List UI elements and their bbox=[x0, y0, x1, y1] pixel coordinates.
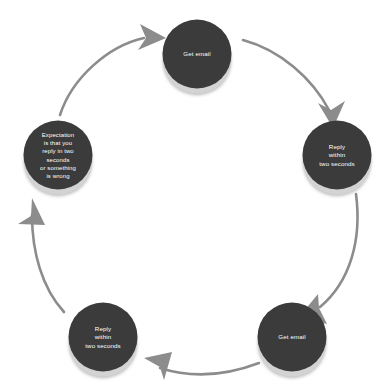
arrow-bottom-right-to-bottom-left-line bbox=[160, 363, 259, 374]
node-get-email-bottom-right[interactable]: Get email bbox=[258, 303, 327, 372]
arrow-left-to-top-line bbox=[60, 38, 144, 115]
arrow-bottom-right-to-bottom-left-head bbox=[144, 352, 172, 380]
node-face: Expectation is that you reply in two sec… bbox=[24, 121, 93, 190]
node-label: Reply within two seconds bbox=[72, 324, 135, 350]
cycle-diagram: Get email Reply within two seconds Get e… bbox=[0, 0, 389, 391]
node-reply-within-two-seconds-bottom-left[interactable]: Reply within two seconds bbox=[69, 303, 138, 372]
arrow-top-to-right-line bbox=[243, 40, 329, 110]
node-face: Reply within two seconds bbox=[303, 121, 372, 190]
node-reply-within-two-seconds-right[interactable]: Reply within two seconds bbox=[303, 121, 372, 190]
node-face: Reply within two seconds bbox=[69, 303, 138, 372]
node-label: Get email bbox=[261, 333, 324, 342]
node-expectation-left[interactable]: Expectation is that you reply in two sec… bbox=[24, 121, 93, 190]
node-label: Expectation is that you reply in two sec… bbox=[27, 130, 90, 179]
node-label: Reply within two seconds bbox=[306, 142, 369, 168]
arrow-bottom-left-to-left-line bbox=[32, 215, 64, 312]
arrow-right-to-bottom-right-line bbox=[320, 194, 358, 307]
node-get-email-top[interactable]: Get email bbox=[163, 20, 232, 89]
node-face: Get email bbox=[258, 303, 327, 372]
arrow-bottom-left-to-left-head bbox=[18, 198, 45, 225]
node-label: Get email bbox=[166, 50, 229, 59]
node-face: Get email bbox=[163, 20, 232, 89]
